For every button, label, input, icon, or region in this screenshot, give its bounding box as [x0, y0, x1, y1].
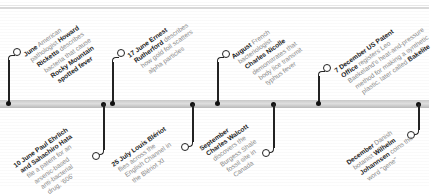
marker-ring-icon [222, 50, 230, 58]
connector-line [112, 62, 114, 104]
marker-dot-icon [215, 101, 220, 106]
connector-line [103, 104, 105, 150]
marker-dot-icon [316, 101, 321, 106]
top-rule [0, 5, 429, 9]
marker-ring-icon [117, 49, 125, 57]
connector-hook [318, 71, 325, 77]
marker-ring-icon [323, 64, 331, 72]
marker-dot-icon [110, 101, 115, 106]
marker-ring-icon [13, 48, 21, 56]
connector-hook [112, 57, 119, 63]
marker-ring-icon [92, 152, 100, 160]
connector-line [8, 60, 10, 104]
connector-hook [217, 57, 224, 63]
connector-line [217, 62, 219, 104]
connector-line [192, 104, 194, 142]
marker-ring-icon [181, 143, 189, 151]
marker-dot-icon [6, 101, 11, 106]
connector-hook [8, 55, 15, 61]
connector-line [273, 104, 275, 148]
connector-line [418, 104, 420, 130]
connector-line [318, 76, 320, 104]
